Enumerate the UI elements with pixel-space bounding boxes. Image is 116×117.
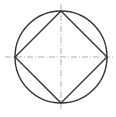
inscribed-square-diagram xyxy=(0,0,116,117)
